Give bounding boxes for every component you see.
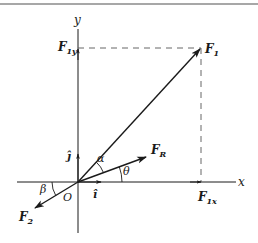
- alpha-label: α: [97, 152, 105, 165]
- theta-label: θ: [123, 165, 130, 178]
- f1y-label: F1y: [57, 40, 78, 56]
- force-vector-diagram: y x O ĵ î F1 FR F2 F1y F1x α θ β: [0, 0, 258, 243]
- j-hat-label: ĵ: [65, 150, 72, 163]
- beta-angle-arc: [52, 182, 56, 195]
- x-axis-label: x: [238, 175, 245, 189]
- f1-label: F1: [204, 42, 219, 58]
- theta-angle-arc: [119, 167, 122, 182]
- fr-vector-arrow: [78, 157, 146, 182]
- fr-label: FR: [150, 143, 167, 159]
- i-hat-label: î: [93, 188, 98, 201]
- y-axis-label: y: [73, 13, 81, 27]
- f2-label: F2: [18, 210, 34, 226]
- f1x-label: F1x: [197, 190, 217, 206]
- beta-label: β: [39, 183, 46, 196]
- origin-label: O: [63, 191, 72, 204]
